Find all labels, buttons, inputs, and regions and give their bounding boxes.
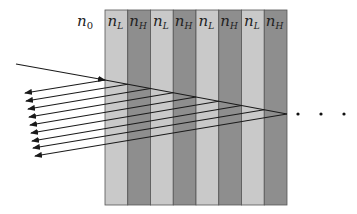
ellipsis-dot bbox=[296, 112, 299, 115]
ambient-index-label: n0 bbox=[77, 12, 93, 31]
multilayer-stack-diagram: nLnHnLnHnLnHnLnHn0 bbox=[0, 0, 357, 214]
layer-labels: nLnHnLnHnLnHnLnHn0 bbox=[77, 12, 284, 31]
continuation-dots bbox=[296, 112, 345, 115]
layer-l-3 bbox=[151, 10, 174, 205]
layer-l-1 bbox=[105, 10, 128, 205]
incident-ray bbox=[16, 64, 105, 80]
reflected-ray bbox=[25, 80, 105, 93]
ellipsis-dot bbox=[342, 112, 345, 115]
layer-l-5 bbox=[196, 10, 219, 205]
ellipsis-dot bbox=[319, 112, 322, 115]
layer-h-8 bbox=[264, 10, 287, 205]
